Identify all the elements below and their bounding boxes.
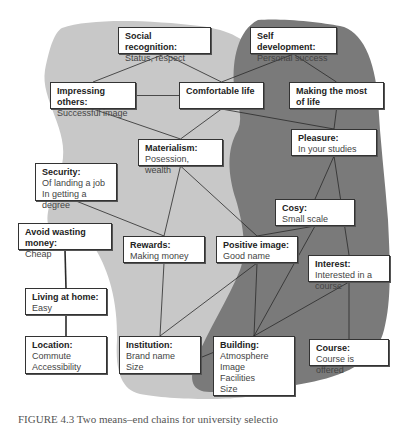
node-avoid-wasting-money: Avoid wasting money: Cheap <box>18 223 112 250</box>
node-title: Impressing others: <box>57 86 129 108</box>
node-line: Size <box>126 362 194 373</box>
node-interest: Interest: Interested in a course <box>308 255 390 282</box>
node-impressing-others: Impressing others: Successful image <box>50 82 136 109</box>
node-line: Making money <box>130 251 198 262</box>
node-title: Social recognition: <box>125 31 204 53</box>
node-line: Interested in a course <box>315 270 383 292</box>
node-line: Easy <box>32 303 100 314</box>
node-line: Commute <box>32 351 100 362</box>
node-social-recognition: Social recognition: Status, respect <box>118 27 211 54</box>
node-line: Personal success <box>257 53 330 64</box>
node-security: Security: Of landing a job In getting a … <box>35 163 117 201</box>
node-title: Pleasure: <box>298 133 370 144</box>
node-line: Size <box>220 384 288 395</box>
node-line: Good name <box>223 251 291 262</box>
node-line: Image <box>220 362 288 373</box>
node-title: Course: <box>316 343 382 354</box>
node-location: Location: Commute Accessibility <box>25 336 107 374</box>
node-positive-image: Positive image: Good name <box>216 236 298 263</box>
node-title: Making the most of life <box>296 86 377 108</box>
node-course: Course: Course is offered <box>309 339 389 366</box>
node-title: Comfortable life <box>186 86 257 97</box>
node-materialism: Materialism: Posession, wealth <box>138 139 223 166</box>
node-living-at-home: Living at home: Easy <box>25 288 107 315</box>
node-line: Posession, wealth <box>145 154 216 176</box>
node-building: Building: Atmosphere Image Facilities Si… <box>213 336 295 396</box>
node-line: Status, respect <box>125 53 204 64</box>
node-line: Small scale <box>282 214 348 225</box>
node-line: Facilities <box>220 373 288 384</box>
node-line: Successful image <box>57 108 129 119</box>
node-title: Materialism: <box>145 143 216 154</box>
node-title: Cosy: <box>282 203 348 214</box>
node-cosy: Cosy: Small scale <box>275 199 355 226</box>
node-line: Accessibility <box>32 362 100 373</box>
node-title: Location: <box>32 340 100 351</box>
node-title: Self development: <box>257 31 330 53</box>
node-line: Cheap <box>25 249 105 260</box>
node-title: Avoid wasting money: <box>25 227 105 249</box>
node-title: Living at home: <box>32 292 100 303</box>
node-title: Positive image: <box>223 240 291 251</box>
node-comfortable-life: Comfortable life <box>179 82 264 109</box>
node-line: Of landing a job <box>42 178 110 189</box>
node-pleasure: Pleasure: In your studies <box>291 129 377 156</box>
node-line: Brand name <box>126 351 194 362</box>
node-line: Atmosphere <box>220 351 288 362</box>
node-making-most-of-life: Making the most of life <box>289 82 384 109</box>
node-institution: Institution: Brand name Size <box>119 336 201 374</box>
node-title: Institution: <box>126 340 194 351</box>
node-line: In your studies <box>298 144 370 155</box>
node-title: Rewards: <box>130 240 198 251</box>
node-line: Course is offered <box>316 354 382 376</box>
node-title: Security: <box>42 167 110 178</box>
node-title: Interest: <box>315 259 383 270</box>
node-title: Building: <box>220 340 288 351</box>
node-self-development: Self development: Personal success <box>250 27 337 54</box>
node-line: In getting a degree <box>42 189 110 211</box>
node-rewards: Rewards: Making money <box>123 236 205 263</box>
